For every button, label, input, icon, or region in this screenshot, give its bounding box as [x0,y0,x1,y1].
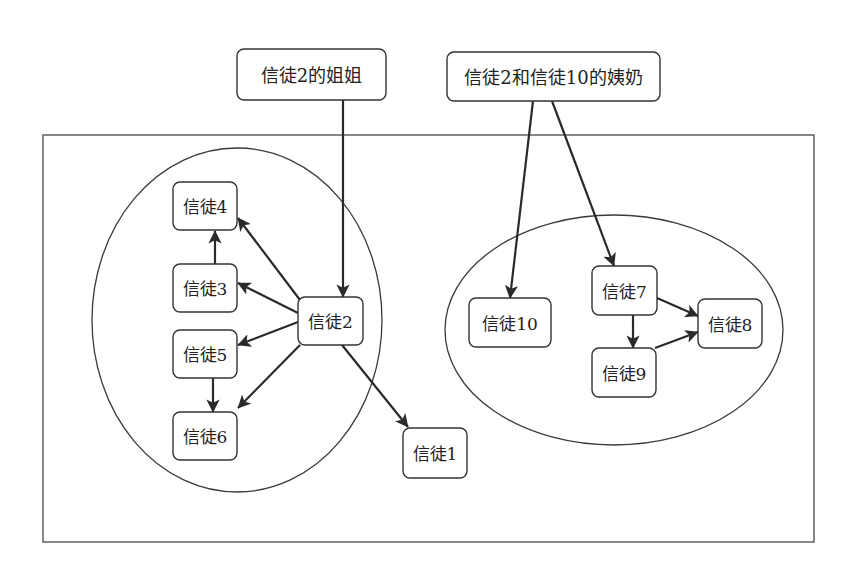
node-b2[interactable]: 信徒2 [298,297,363,345]
node-b6[interactable]: 信徒6 [173,412,237,460]
edge-arrow [238,283,298,313]
node-sister[interactable]: 信徒2的姐姐 [237,49,386,100]
node-b1[interactable]: 信徒1 [403,428,467,478]
edge-arrow [342,345,408,427]
edge-arrow [657,298,698,316]
edge-arrow [655,332,698,348]
node-label: 信徒2和信徒10的姨奶 [464,67,642,88]
node-b7[interactable]: 信徒7 [592,266,657,315]
node-label: 信徒5 [183,345,228,365]
node-b9[interactable]: 信徒9 [592,348,656,397]
node-b4[interactable]: 信徒4 [173,182,237,230]
node-label: 信徒6 [183,427,228,447]
node-label: 信徒3 [183,279,228,299]
node-label: 信徒2 [308,312,353,332]
edge-arrow [510,101,533,298]
nodes-layer: 信徒2的姐姐信徒2和信徒10的姨奶信徒4信徒3信徒5信徒6信徒2信徒1信徒10信… [173,49,762,478]
node-label: 信徒7 [602,282,647,302]
node-aunt[interactable]: 信徒2和信徒10的姨奶 [447,52,660,101]
edge-arrow [238,322,298,345]
relationship-diagram: 信徒2的姐姐信徒2和信徒10的姨奶信徒4信徒3信徒5信徒6信徒2信徒1信徒10信… [0,0,844,576]
edge-arrow [552,101,614,266]
node-label: 信徒2的姐姐 [261,65,362,86]
node-b3[interactable]: 信徒3 [173,264,237,312]
node-b8[interactable]: 信徒8 [698,299,762,348]
node-label: 信徒1 [413,444,458,464]
node-label: 信徒9 [602,364,647,384]
node-label: 信徒4 [183,197,228,217]
edge-arrow [238,345,300,408]
node-label: 信徒10 [482,314,538,334]
node-b10[interactable]: 信徒10 [469,298,551,347]
node-b5[interactable]: 信徒5 [173,330,237,378]
node-label: 信徒8 [708,315,753,335]
